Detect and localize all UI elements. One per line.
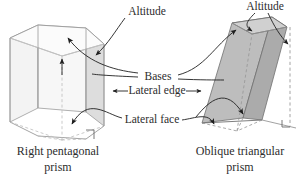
caption-right-line2: prism: [226, 160, 254, 174]
caption-left-line2: prism: [44, 160, 72, 174]
label-altitude-right: Altitude: [246, 0, 284, 12]
label-lateral-face: Lateral face: [125, 113, 180, 125]
caption-left-line1: Right pentagonal: [17, 144, 100, 158]
caption-right-line1: Oblique triangular: [196, 144, 284, 158]
label-bases: Bases: [145, 70, 172, 82]
label-lateral-edge: Lateral edge: [128, 84, 185, 97]
prism-terminology-figure: Altitude Altitude Bases Lateral edge Lat…: [0, 0, 305, 181]
label-altitude-left: Altitude: [128, 5, 166, 17]
